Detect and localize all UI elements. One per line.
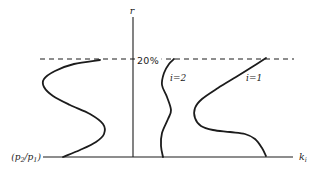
curve-p2p1: [43, 60, 105, 157]
curves-group: [43, 58, 266, 157]
threshold-label: 20%: [137, 55, 159, 66]
pressure-ratio-label: (p2/p1): [11, 152, 41, 164]
curve-label-i2: i=2: [170, 73, 186, 83]
x-axis-label: ki: [299, 151, 307, 164]
growth-rate-figure: r 20% i=2 i=1 (p2/p1) ki: [0, 0, 314, 174]
y-axis-label: r: [130, 5, 136, 16]
labels-group: r 20% i=2 i=1 (p2/p1) ki: [11, 5, 307, 164]
curve-label-i1: i=1: [246, 73, 262, 83]
figure-canvas: r 20% i=2 i=1 (p2/p1) ki: [0, 0, 314, 174]
